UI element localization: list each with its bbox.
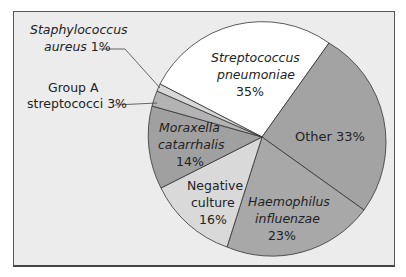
label-staph-2: aureus 1% xyxy=(44,39,111,55)
label-moraxella-1: Moraxella xyxy=(159,120,220,136)
label-staph-1: Staphylococcus xyxy=(30,22,128,38)
label-moraxella-pct: 14% xyxy=(176,154,204,170)
label-strep-pneu-1: Streptococcus xyxy=(211,50,300,66)
label-haemophilus-2: influenzae xyxy=(255,211,320,227)
label-negative-pct: 16% xyxy=(199,212,227,228)
label-haemophilus-pct: 23% xyxy=(268,228,296,244)
label-negative-1: Negative xyxy=(187,178,243,194)
label-negative-2: culture xyxy=(191,195,235,211)
label-strep-pneu-pct: 35% xyxy=(236,84,264,100)
label-groupa-2: streptococci 3% xyxy=(27,96,127,112)
label-groupa-1: Group A xyxy=(48,80,99,96)
label-staph-name: aureus xyxy=(44,39,87,54)
label-haemophilus-1: Haemophilus xyxy=(248,194,330,210)
label-staph-pct: 1% xyxy=(87,39,111,54)
label-other: Other 33% xyxy=(295,129,365,145)
label-moraxella-2: catarrhalis xyxy=(158,137,224,153)
label-strep-pneu-2: pneumoniae xyxy=(217,67,295,83)
